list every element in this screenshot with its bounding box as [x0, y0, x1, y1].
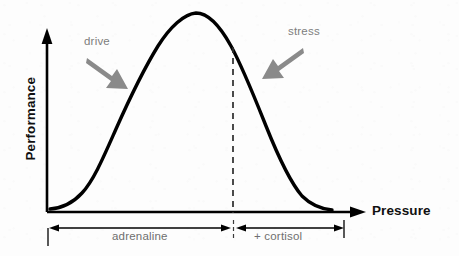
- drive-arrow-icon: [86, 58, 128, 89]
- stress-arrow-icon: [262, 48, 304, 79]
- stress-annotation-label: stress: [288, 26, 320, 38]
- drive-annotation-label: drive: [84, 36, 110, 48]
- cortisol-span-label: + cortisol: [254, 231, 302, 243]
- adrenaline-span-label: adrenaline: [112, 231, 168, 243]
- y-axis-label: Performance: [24, 69, 38, 169]
- x-axis-label: Pressure: [372, 204, 431, 218]
- performance-pressure-chart: Performance Pressure drive stress adrena…: [0, 0, 459, 256]
- y-axis: [42, 28, 53, 212]
